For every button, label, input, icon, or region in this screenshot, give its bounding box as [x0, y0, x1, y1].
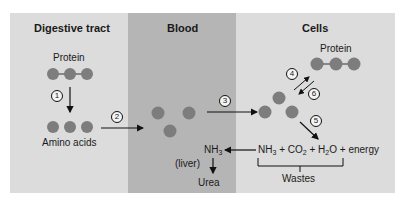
- liver-label: (liver): [175, 158, 200, 169]
- digestive-tract-heading: Digestive tract: [34, 22, 110, 34]
- amino-acids-blood: [152, 107, 196, 138]
- step-3-marker: 3: [219, 95, 231, 107]
- digestive-protein-chain: [47, 68, 93, 80]
- step-4-marker: 4: [286, 68, 298, 80]
- blood-heading: Blood: [167, 22, 198, 34]
- digestive-protein-label: Protein: [53, 52, 85, 63]
- step-1-marker: 1: [51, 90, 63, 102]
- blood-ammonia-label: NH3: [204, 144, 222, 155]
- urea-label: Urea: [198, 177, 220, 188]
- cell-protein-label: Protein: [320, 43, 352, 54]
- step-5-marker: 5: [310, 115, 322, 127]
- step-6-marker: 6: [308, 88, 320, 100]
- metabolic-products-equation: NH3 + CO2 + H2O + energy: [258, 144, 379, 155]
- amino-acids-digestive: [47, 121, 93, 133]
- cell-protein-chain: [311, 58, 361, 71]
- amino-acids-cells: [259, 92, 299, 119]
- step-2-marker: 2: [111, 111, 123, 123]
- amino-acids-label: Amino acids: [42, 137, 96, 148]
- cells-heading: Cells: [302, 22, 328, 34]
- wastes-label: Wastes: [282, 173, 315, 184]
